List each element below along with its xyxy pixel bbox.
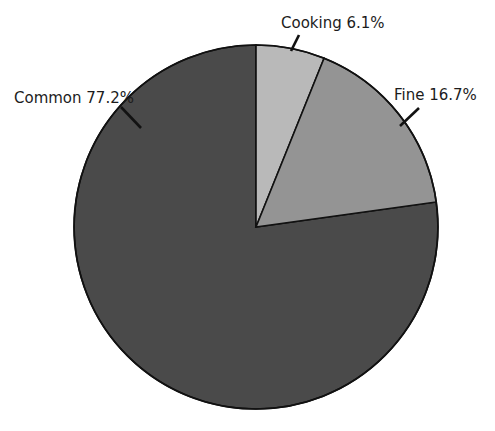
pie-label-common: Common 77.2% bbox=[14, 89, 134, 107]
leader-line-fine bbox=[400, 108, 419, 126]
pie-label-cooking: Cooking 6.1% bbox=[281, 14, 385, 32]
pie-chart-canvas bbox=[0, 0, 495, 431]
pie-chart-figure: Rice Mill Products Cooking 6.1% Fine 16.… bbox=[0, 0, 495, 431]
pie-label-fine: Fine 16.7% bbox=[394, 86, 477, 104]
